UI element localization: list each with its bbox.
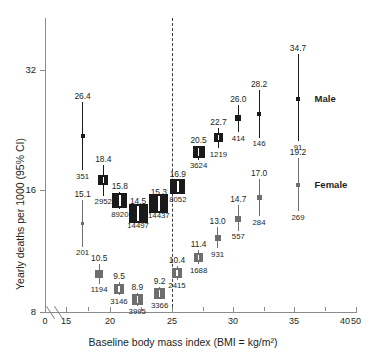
data-point-sample-size-label: 2415 [159,281,195,290]
data-point-marker[interactable] [296,183,300,187]
data-point-sample-size-label: 269 [280,213,316,222]
marker-estimate-tick [177,181,179,192]
data-point-marker[interactable] [81,222,84,225]
data-point-sample-size-label: 284 [241,218,277,227]
data-point-value-label: 34.7 [282,43,314,53]
marker-estimate-tick [218,135,220,140]
marker-estimate-tick [118,286,120,292]
marker-estimate-tick [159,290,161,297]
data-point-sample-size-label: 3624 [181,161,217,170]
data-point-value-label: 26.4 [67,91,99,101]
data-point-sample-size-label: 3366 [142,301,178,310]
data-points-layer: 26.435118.4295215.8892014.51449715.31443… [0,0,366,360]
data-point-value-label: 16.9 [162,169,194,179]
marker-estimate-tick [119,195,121,206]
marker-estimate-tick [137,296,139,303]
chart-canvas: Yearly deaths per 1000 (95% CI) 32 16 8 … [0,0,366,360]
data-point-sample-size-label: 1688 [181,266,217,275]
data-point-sample-size-label: 557 [220,232,256,241]
data-point-value-label: 15.8 [104,181,136,191]
data-point-value-label: 18.4 [87,154,119,164]
data-point-sample-size-label: 14437 [141,211,177,220]
data-point-marker[interactable] [81,134,85,138]
data-point-marker[interactable] [170,179,185,194]
data-point-value-label: 26.0 [222,94,254,104]
data-point-value-label: 9.5 [103,271,135,281]
data-point-value-label: 11.4 [183,239,215,249]
data-point-value-label: 17.0 [243,168,275,178]
data-point-sample-size-label: 931 [200,250,236,259]
data-point-sample-size-label: 8052 [160,195,196,204]
marker-estimate-tick [137,206,139,221]
data-point-value-label: 28.2 [243,79,275,89]
data-point-value-label: 22.7 [202,117,234,127]
data-point-value-label: 14.7 [222,194,254,204]
series-label-male: Male [315,93,336,104]
data-point-marker[interactable] [257,112,261,116]
data-point-value-label: 13.0 [202,216,234,226]
data-point-marker[interactable] [257,195,262,200]
data-point-sample-size-label: 1219 [200,150,236,159]
data-point-sample-size-label: 146 [241,139,277,148]
data-point-sample-size-label: 14497 [120,221,156,230]
data-point-value-label: 15.1 [67,189,99,199]
data-point-value-label: 10.5 [83,253,115,263]
data-point-sample-size-label: 351 [65,172,101,181]
series-label-female: Female [315,179,348,190]
data-point-sample-size-label: 1194 [81,285,117,294]
marker-estimate-tick [176,270,178,276]
data-point-marker[interactable] [95,270,103,278]
data-point-value-label: 10.4 [161,255,193,265]
data-point-marker[interactable] [296,97,300,101]
data-point-value-label: 20.5 [183,135,215,145]
data-point-marker[interactable] [235,115,241,121]
data-point-value-label: 19.2 [282,147,314,157]
marker-estimate-tick [198,148,200,156]
